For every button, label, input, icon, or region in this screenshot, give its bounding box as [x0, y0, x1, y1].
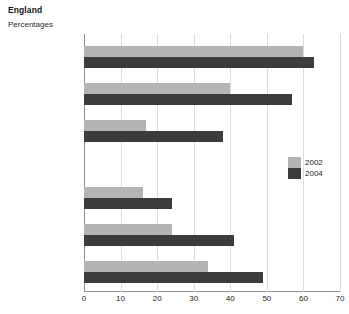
gridline-10: [121, 34, 122, 292]
bar-2004-0: [84, 57, 314, 68]
x-tick-label-0: 0: [82, 294, 86, 303]
page-title: England: [8, 5, 42, 15]
bar-2002-1: [84, 83, 230, 94]
chart-subtitle: Percentages: [8, 20, 53, 29]
bar-chart: England Percentages 010203040506070 Prim…: [0, 0, 349, 314]
gridline-0: [84, 34, 85, 292]
bar-2002-4: [84, 224, 172, 235]
legend-swatch-2004-icon: [288, 168, 301, 179]
gridline-40: [230, 34, 231, 292]
legend-swatch-2002-icon: [288, 157, 301, 168]
bar-2002-5: [84, 261, 208, 272]
x-tick-label-50: 50: [262, 294, 271, 303]
x-axis-baseline: [84, 291, 340, 292]
bar-2002-3: [84, 187, 143, 198]
legend-item-2004: 2004: [288, 168, 323, 179]
chart-legend: 2002 2004: [288, 157, 323, 179]
legend-item-2002: 2002: [288, 157, 323, 168]
bar-2004-1: [84, 94, 292, 105]
bar-2002-2: [84, 120, 146, 131]
x-tick-label-70: 70: [336, 294, 345, 303]
bar-2004-5: [84, 272, 263, 283]
x-tick-label-20: 20: [153, 294, 162, 303]
legend-label-2004: 2004: [305, 168, 323, 179]
legend-label-2002: 2002: [305, 157, 323, 168]
gridline-70: [340, 34, 341, 292]
gridline-30: [194, 34, 195, 292]
gridline-50: [267, 34, 268, 292]
gridline-20: [157, 34, 158, 292]
x-tick-label-30: 30: [189, 294, 198, 303]
x-axis-tick-labels: 010203040506070: [84, 294, 340, 308]
bar-2002-0: [84, 46, 303, 57]
bar-2004-3: [84, 198, 172, 209]
bar-2004-4: [84, 235, 234, 246]
x-tick-label-60: 60: [299, 294, 308, 303]
bar-2004-2: [84, 131, 223, 142]
x-tick-label-40: 40: [226, 294, 235, 303]
x-tick-label-10: 10: [116, 294, 125, 303]
